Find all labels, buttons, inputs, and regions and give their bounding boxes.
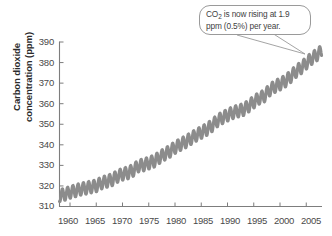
co2-rate-callout: CO2 is now rising at 1.9 ppm (0.5%) per … xyxy=(199,5,311,35)
plot-area xyxy=(0,0,332,236)
y-tick-marks xyxy=(60,42,64,207)
co2-concentration-chart: Carbon dioxide concentration (ppm) 390 3… xyxy=(0,0,332,236)
callout-subscript: 2 xyxy=(218,13,221,20)
x-tick-marks xyxy=(70,203,306,207)
co2-data-series xyxy=(60,47,322,202)
callout-text-prefix: CO xyxy=(206,9,218,19)
